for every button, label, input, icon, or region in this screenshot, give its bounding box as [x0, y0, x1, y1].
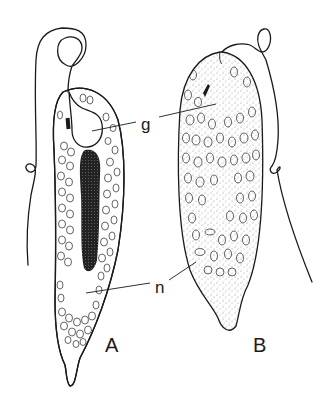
leader-line-n-a	[86, 283, 150, 293]
figure-canvas: g n A B	[0, 0, 321, 400]
dense-granule-streak	[80, 150, 100, 272]
panel-label-a: A	[105, 334, 119, 356]
cell-a	[26, 28, 124, 386]
cell-b-body	[178, 52, 262, 330]
label-n: n	[155, 278, 164, 297]
panel-label-b: B	[253, 334, 266, 356]
label-g: g	[141, 115, 150, 134]
eyespot-a	[66, 118, 71, 129]
nucleus-region-a	[65, 272, 95, 308]
cell-b	[178, 29, 312, 330]
cell-a-contents	[57, 92, 120, 348]
